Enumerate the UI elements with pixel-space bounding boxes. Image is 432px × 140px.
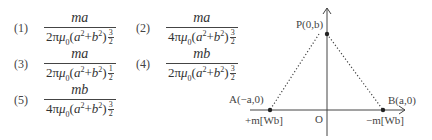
label-A: A(−a,0) — [229, 93, 264, 106]
label-charge-A: +m[Wb] — [245, 114, 283, 126]
label-B: B(a,0) — [388, 94, 416, 107]
coordinate-diagram: P(0,b) A(−a,0) B(a,0) O +m[Wb] −m[Wb] — [0, 0, 432, 140]
line-PB — [327, 34, 383, 110]
point-P — [325, 32, 329, 36]
label-charge-B: −m[Wb] — [366, 114, 404, 126]
label-origin: O — [315, 113, 323, 125]
line-PA — [270, 34, 319, 110]
point-A — [268, 108, 272, 112]
point-B — [381, 108, 385, 112]
label-P: P(0,b) — [296, 18, 324, 31]
